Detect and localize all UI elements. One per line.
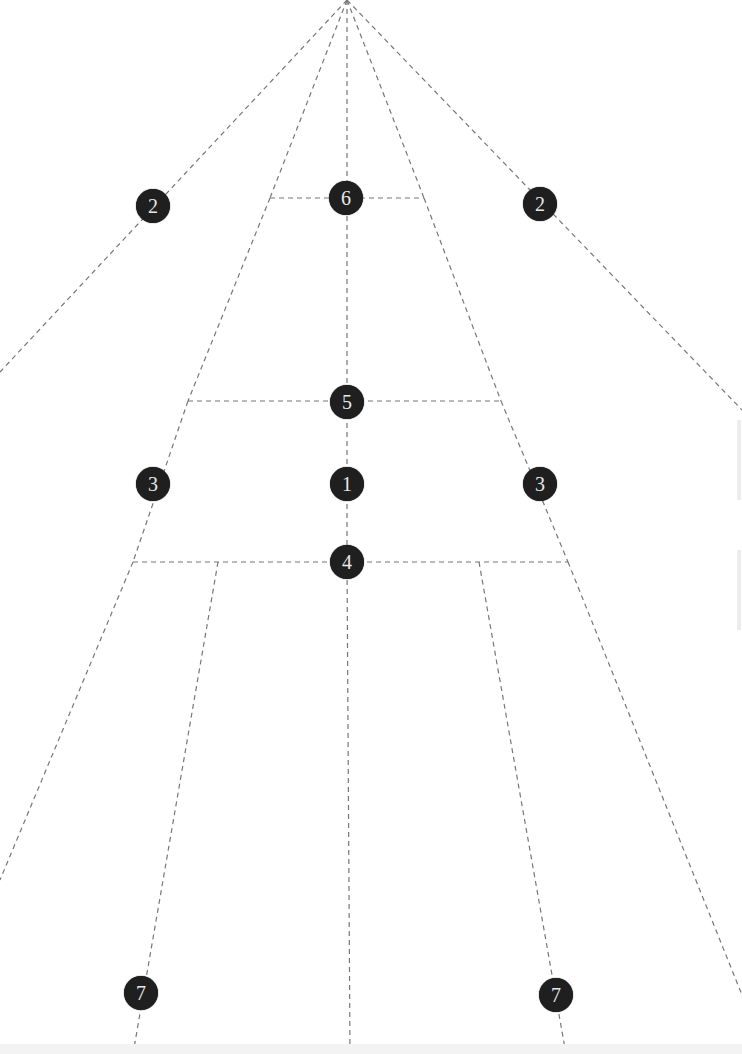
marker-3-left: 3 xyxy=(136,467,170,501)
marker-1: 1 xyxy=(330,467,364,501)
dashed-line-left-side-lower xyxy=(0,562,133,880)
marker-6: 6 xyxy=(329,181,363,215)
dashed-lines xyxy=(0,0,742,1054)
marker-4: 4 xyxy=(330,545,364,579)
dashed-line-fan-inner-right xyxy=(347,0,424,198)
dashed-line-diagram xyxy=(0,0,742,1054)
dashed-line-left-side-upper xyxy=(188,198,270,401)
marker-2-left: 2 xyxy=(136,189,170,223)
paper-smudge xyxy=(737,550,741,630)
dashed-line-fan-inner-left xyxy=(270,0,347,198)
dashed-line-right-side-upper xyxy=(424,198,501,401)
page-bottom-edge xyxy=(0,1044,742,1054)
marker-2-right: 2 xyxy=(523,187,557,221)
paper-smudge xyxy=(737,420,741,500)
marker-7-left: 7 xyxy=(124,976,158,1010)
dashed-line-right-side-lower xyxy=(568,562,742,995)
marker-7-right: 7 xyxy=(539,978,573,1012)
marker-3-right: 3 xyxy=(523,467,557,501)
dashed-line-fan-far-left xyxy=(0,0,347,372)
dashed-line-center-vertical-lower xyxy=(347,562,350,1054)
marker-5: 5 xyxy=(330,385,364,419)
